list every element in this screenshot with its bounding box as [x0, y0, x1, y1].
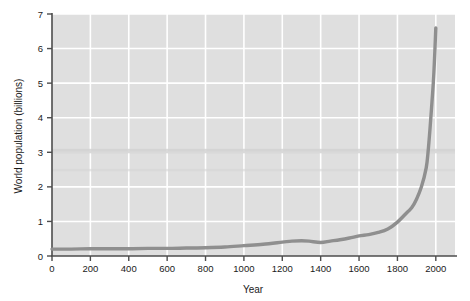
plot-area	[52, 14, 455, 256]
x-tick-label: 1400	[310, 263, 331, 274]
y-tick-label: 1	[38, 216, 43, 227]
y-tick-label: 0	[38, 251, 43, 262]
y-tick-label: 3	[38, 147, 43, 158]
x-tick-label: 2000	[425, 263, 446, 274]
population-chart-figure: 0200400600800100012001400160018002000 01…	[0, 0, 470, 301]
y-axis-title: World population (billions)	[13, 79, 24, 194]
y-tick-label: 7	[38, 9, 43, 20]
x-tick-label: 800	[198, 263, 214, 274]
chart-canvas: 0200400600800100012001400160018002000 01…	[0, 0, 470, 301]
x-tick-label: 1600	[348, 263, 369, 274]
x-tick-label: 1000	[233, 263, 254, 274]
y-tick-label: 5	[38, 78, 43, 89]
x-tick-label: 0	[49, 263, 54, 274]
y-tick-label: 4	[38, 112, 43, 123]
x-tick-label: 1800	[387, 263, 408, 274]
x-tick-label: 400	[121, 263, 137, 274]
x-tick-label: 1200	[272, 263, 293, 274]
x-axis-title: Year	[243, 284, 264, 295]
x-tick-label: 600	[159, 263, 175, 274]
y-tick-label: 2	[38, 181, 43, 192]
x-tick-label: 200	[82, 263, 98, 274]
y-tick-label: 6	[38, 43, 43, 54]
